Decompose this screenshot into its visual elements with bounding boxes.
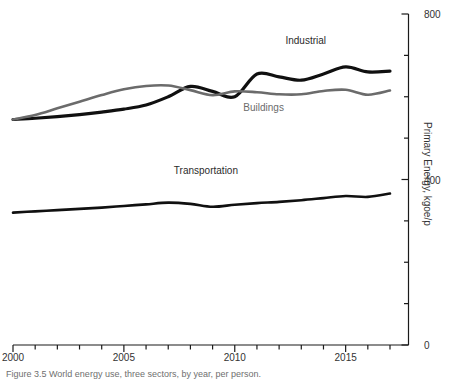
x-axis-tick-label: 2005 xyxy=(113,352,135,363)
figure-caption: Figure 3.5 World energy use, three secto… xyxy=(6,369,461,379)
y-axis-tick-label: 0 xyxy=(424,340,430,351)
y-axis-tick-label: 800 xyxy=(424,9,441,20)
x-axis-tick-label: 2010 xyxy=(224,352,246,363)
series-label-buildings: Buildings xyxy=(243,102,284,113)
x-axis-tick-label: 2000 xyxy=(2,352,24,363)
series-label-transportation: Transportation xyxy=(174,165,238,176)
x-axis-tick-label: 2015 xyxy=(335,352,357,363)
y-axis-title: Primary Energy, kgoe/p xyxy=(422,122,433,252)
y-axis-tick-label: 400 xyxy=(424,174,441,185)
series-label-industrial: Industrial xyxy=(285,35,326,46)
